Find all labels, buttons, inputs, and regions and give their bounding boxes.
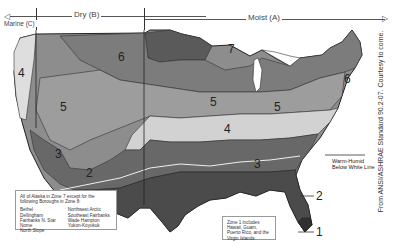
zone-label-3b: 3 xyxy=(254,157,261,171)
zone-1-region xyxy=(298,218,312,232)
zone1-note: Zone 1 includes Hawaii, Guam, Puerto Ric… xyxy=(222,216,276,240)
zone-label-1: 1 xyxy=(316,225,323,239)
warm-humid-line2: Below White Line xyxy=(332,164,375,170)
zone-label-7: 7 xyxy=(228,42,235,56)
alaska-note: All of Alaska in Zone 7 except for the f… xyxy=(15,190,117,230)
zone-label-5c: 5 xyxy=(210,95,217,109)
zone-label-4b: 4 xyxy=(224,122,231,136)
credit-text: From ANSI/ASHRAE Standard 90.2-07. Court… xyxy=(377,22,384,222)
zone-label-4a: 4 xyxy=(18,66,25,80)
zone-7-region xyxy=(145,30,212,62)
borough: Yukon-Koyukuk xyxy=(68,223,110,228)
zone1-note-text: Zone 1 includes Hawaii, Guam, Puerto Ric… xyxy=(227,220,271,241)
zone-label-5b: 5 xyxy=(274,100,281,114)
zone-label-5a: 5 xyxy=(60,100,67,114)
zone-label-3a: 3 xyxy=(55,147,62,161)
zone-label-6a: 6 xyxy=(118,50,125,64)
borough: North Slope xyxy=(20,228,56,233)
alaska-note-col1: Bethel Dellingham Fairbanks N. Star Nome… xyxy=(20,207,56,233)
warm-humid-callout: Warm-Humid Below White Line xyxy=(332,158,375,170)
zone-label-2b: 2 xyxy=(316,189,323,203)
zone-label-2a: 2 xyxy=(86,166,93,180)
alaska-note-intro: All of Alaska in Zone 7 except for the f… xyxy=(20,194,112,204)
zone-label-6b: 6 xyxy=(344,72,351,86)
alaska-note-col2: Northwest Arctic Southeast Fairbanks Wad… xyxy=(68,207,110,233)
